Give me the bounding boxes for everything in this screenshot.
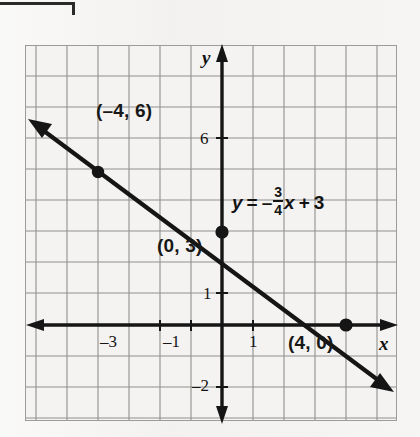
equation-variable: x [284,193,295,212]
y-tick-label-minus2: –2 [192,377,209,394]
equation-sign: – [262,193,273,212]
figure-page: y x 6 1 –2 –3 –1 1 (–4, 6) (0, 3) (4, 0)… [0,0,420,437]
y-tick-label-1: 1 [203,285,212,302]
plotted-line [28,119,394,392]
equation-plus: + [299,193,310,212]
point-label-0-3: (0, 3) [157,236,203,255]
y-tick-label-6: 6 [200,130,209,147]
x-axis-label: x [379,334,389,353]
point-label-4-0: (4, 0) [288,333,334,352]
point-label-minus4-6: (–4, 6) [96,101,152,120]
equation-equals: = [247,193,258,212]
x-tick-label-minus3: –3 [100,333,117,350]
grid-lines [26,45,396,420]
point-marker-0-3 [215,225,228,238]
equation-fraction: 3 4 [273,185,283,218]
fraction-denominator: 4 [273,203,283,217]
point-marker-4-0 [339,318,352,331]
x-tick-label-minus1: –1 [163,333,180,350]
equation-lhs: y [232,193,243,212]
x-tick-label-1: 1 [249,333,258,350]
fraction-numerator: 3 [273,185,283,199]
equation-label: y = – 3 4 x + 3 [232,186,324,219]
equation-intercept: 3 [314,193,325,212]
point-marker-minus4-6 [92,166,104,178]
y-axis-label: y [202,48,210,67]
